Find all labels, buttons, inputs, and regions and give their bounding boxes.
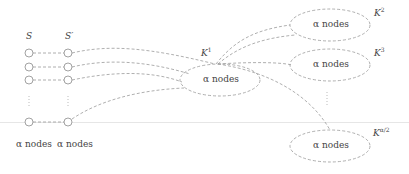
diagram-canvas: S S′ α nodes α nodes α nodes α nodes α n… [0,0,409,174]
edge-sprime-k1-2 [72,62,190,74]
k3-base: K [374,48,381,58]
edge-k1-k2-b [218,35,295,64]
node-sprime-1 [64,49,72,57]
edge-k1-k2-a [216,25,290,64]
label-s: S [26,31,32,41]
node-s-3 [25,76,33,84]
node-sprime-4 [64,118,72,126]
cluster-k1-text: α nodes [203,74,239,84]
k1-base: K [201,48,208,58]
k3-sup: 3 [381,46,385,53]
cluster-k2-label: K2 [374,6,385,18]
k2-base: K [374,8,381,18]
kalpha2-base: K [373,128,380,138]
node-s-4 [25,118,33,126]
k1-sup: 1 [208,46,212,53]
cluster-kalpha2-text: α nodes [313,140,349,150]
label-sprime-mark: ′ [71,31,73,41]
kalpha2-sup: α/2 [380,126,390,133]
label-sprime-count: α nodes [57,139,93,149]
label-s-text: S [26,31,32,41]
edge-sprime-k1-3 [72,74,182,83]
cluster-k3-label: K3 [374,46,385,58]
node-s-2 [25,63,33,71]
cluster-k3-text: α nodes [313,59,349,69]
label-sprime: S′ [65,31,73,41]
node-s-1 [25,49,33,57]
cluster-k2-text: α nodes [313,19,349,29]
label-s-count: α nodes [16,139,52,149]
edge-sprime-k1-1 [72,48,215,64]
node-sprime-2 [64,63,72,71]
edge-sprime-k1-4 [72,88,184,119]
k2-sup: 2 [381,6,385,13]
cluster-kalpha2-label: Kα/2 [373,126,390,138]
cluster-k1-label: K1 [201,46,212,58]
node-sprime-3 [64,76,72,84]
